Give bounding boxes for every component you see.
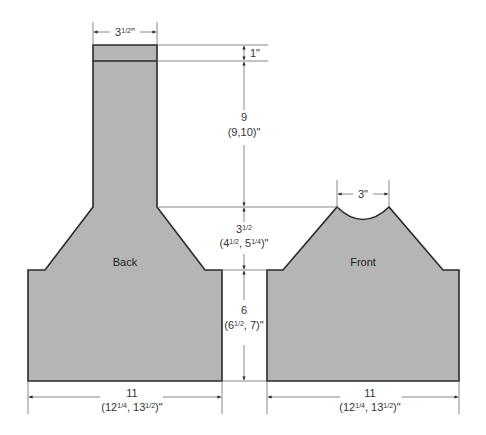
collar-height-dimension: 9 (9,10)" — [228, 62, 261, 206]
back-piece — [28, 45, 222, 381]
svg-text:(61/2, 7)": (61/2, 7)" — [224, 319, 263, 331]
svg-text:31/2": 31/2" — [115, 26, 135, 38]
front-piece — [267, 207, 459, 381]
svg-text:11: 11 — [364, 387, 375, 399]
svg-text:(121/4, 131/2)": (121/4, 131/2)" — [339, 401, 400, 413]
svg-text:3": 3" — [358, 188, 368, 200]
schematic-canvas: Back Front 31/2" 1" 9 (9,10)" 31/2 (41/2… — [0, 0, 486, 435]
front-width-dimension: 11 (121/4, 131/2)" — [267, 381, 459, 414]
svg-text:(41/2, 51/4)": (41/2, 51/4)" — [219, 237, 268, 249]
back-width-dimension: 11 (121/4, 131/2)" — [28, 381, 222, 414]
front-neck-width-dimension: 3" — [337, 180, 389, 207]
svg-text:9: 9 — [241, 111, 247, 123]
side-length-dimension: 6 (61/2, 7)" — [224, 271, 263, 380]
armhole-depth-dimension: 31/2 (41/2, 51/4)" — [219, 208, 268, 269]
front-label: Front — [350, 256, 376, 268]
svg-text:11: 11 — [126, 387, 137, 399]
svg-text:(9,10)": (9,10)" — [228, 126, 261, 138]
svg-text:(121/4, 131/2)": (121/4, 131/2)" — [101, 401, 162, 413]
back-label: Back — [113, 256, 138, 268]
svg-text:31/2: 31/2 — [236, 223, 252, 235]
back-neck-width-dimension: 31/2" — [93, 22, 157, 45]
collar-band-dimension: 1" — [244, 46, 260, 60]
svg-text:6: 6 — [241, 304, 247, 316]
svg-text:1": 1" — [250, 47, 260, 59]
